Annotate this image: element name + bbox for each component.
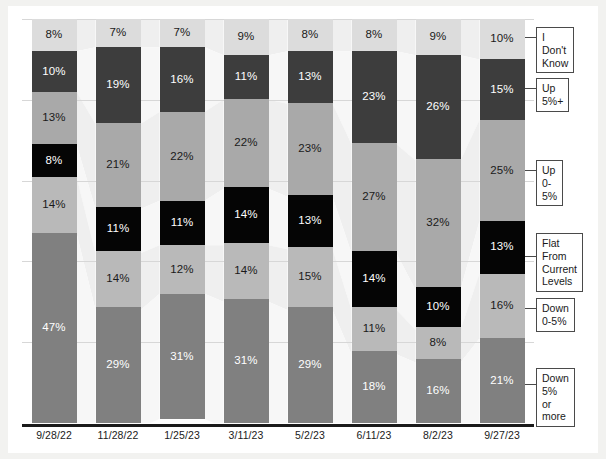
bar-segment[interactable]: 23%	[352, 51, 397, 143]
x-axis-tick-label: 11/28/22	[86, 429, 150, 451]
bar-segment-label: 14%	[106, 273, 129, 285]
bar-segment-label: 29%	[298, 359, 321, 371]
bar-segment[interactable]: 29%	[96, 307, 141, 423]
bar-segment[interactable]: 8%	[32, 19, 77, 51]
bar-segment[interactable]: 11%	[352, 307, 397, 351]
bar-segment-label: 15%	[298, 271, 321, 283]
bar-segment[interactable]: 47%	[32, 233, 77, 423]
bar-segment[interactable]: 31%	[160, 294, 205, 419]
bar-segment-label: 10%	[42, 66, 65, 78]
bar-segment[interactable]: 11%	[160, 201, 205, 245]
bar-segment[interactable]: 14%	[96, 251, 141, 307]
bar-segment[interactable]: 21%	[480, 338, 525, 423]
bar-segment[interactable]: 26%	[416, 55, 461, 159]
stacked-bar[interactable]: 8%10%13%8%14%47%	[32, 19, 77, 423]
bar-segment-label: 31%	[170, 351, 193, 363]
bar-segment[interactable]: 23%	[288, 103, 333, 195]
bar-segment[interactable]: 31%	[224, 299, 269, 423]
bar-segment[interactable]: 8%	[416, 327, 461, 359]
bar-segment[interactable]: 21%	[96, 123, 141, 207]
bar-segment-label: 22%	[234, 137, 257, 149]
bar-segment-label: 11%	[363, 323, 385, 335]
bar-segment[interactable]: 16%	[416, 359, 461, 423]
bar-segment-label: 11%	[235, 71, 257, 83]
bar-segment[interactable]: 9%	[224, 19, 269, 55]
bar-segment[interactable]: 15%	[480, 59, 525, 120]
bar-segment[interactable]: 19%	[96, 47, 141, 123]
bar-segment[interactable]: 18%	[352, 351, 397, 423]
bar-segment[interactable]: 9%	[416, 19, 461, 55]
bar-segment[interactable]: 29%	[288, 307, 333, 423]
bar-segment[interactable]: 13%	[288, 195, 333, 247]
bar-segment[interactable]: 10%	[32, 51, 77, 91]
bar-segment[interactable]: 11%	[224, 55, 269, 99]
bar-segment[interactable]: 8%	[288, 19, 333, 51]
bar-segment[interactable]: 32%	[416, 159, 461, 287]
stacked-bar[interactable]: 9%26%32%10%8%16%	[416, 19, 461, 423]
bar-slot: 8%13%23%13%15%29%	[278, 19, 342, 423]
bar-segment-label: 10%	[490, 33, 513, 45]
bar-segment[interactable]: 13%	[32, 92, 77, 145]
legend-label: Down 0-5%	[536, 298, 575, 332]
bar-segment[interactable]: 14%	[32, 177, 77, 234]
x-axis-tick-label: 6/11/23	[342, 429, 406, 451]
bar-segment[interactable]: 16%	[160, 47, 205, 112]
bar-slot: 9%11%22%14%14%31%	[214, 19, 278, 423]
x-axis-tick-label: 8/2/23	[406, 429, 470, 451]
legend-label: Up 5%+	[536, 78, 569, 112]
bar-segment[interactable]: 27%	[352, 143, 397, 251]
bar-segment-label: 8%	[46, 155, 63, 167]
bar-segment[interactable]: 8%	[32, 144, 77, 176]
bar-segment[interactable]: 10%	[480, 19, 525, 59]
bar-segment[interactable]: 15%	[288, 247, 333, 307]
bar-slot: 9%26%32%10%8%16%	[406, 19, 470, 423]
bar-slot: 8%23%27%14%11%18%	[342, 19, 406, 423]
bar-segment-label: 7%	[174, 27, 191, 39]
bar-segment-label: 22%	[170, 151, 193, 163]
bar-segment[interactable]: 8%	[352, 19, 397, 51]
x-axis-tick-label: 9/28/22	[22, 429, 86, 451]
bar-segment[interactable]: 22%	[224, 99, 269, 187]
stacked-bar[interactable]: 10%15%25%13%16%21%	[480, 19, 525, 423]
bar-segment-label: 12%	[170, 264, 193, 276]
stacked-bar[interactable]: 9%11%22%14%14%31%	[224, 19, 269, 423]
bar-segment[interactable]: 13%	[288, 51, 333, 103]
bar-segment-label: 14%	[234, 209, 257, 221]
bar-segment-label: 18%	[362, 381, 385, 393]
bar-segment-label: 27%	[362, 191, 385, 203]
x-axis-tick-label: 1/25/23	[150, 429, 214, 451]
bar-segment-label: 7%	[110, 27, 127, 39]
bar-segment-label: 29%	[106, 359, 129, 371]
bar-segment-label: 13%	[42, 112, 65, 124]
legend-leader-line	[525, 37, 537, 38]
bar-segment-label: 19%	[106, 79, 129, 91]
bar-segment-label: 13%	[298, 215, 321, 227]
bar-segment[interactable]: 16%	[480, 274, 525, 339]
legend-label: I Don't Know	[536, 27, 574, 73]
stacked-bar[interactable]: 8%23%27%14%11%18%	[352, 19, 397, 423]
bar-segment[interactable]: 22%	[160, 112, 205, 201]
stacked-bar[interactable]: 7%16%22%11%12%31%	[160, 19, 205, 423]
bar-segment[interactable]: 7%	[160, 19, 205, 47]
bar-segment[interactable]: 12%	[160, 245, 205, 293]
bar-segment[interactable]: 11%	[96, 207, 141, 251]
bar-segment-label: 14%	[362, 273, 385, 285]
x-axis-tick-label: 3/11/23	[214, 429, 278, 451]
legend-leader-line	[525, 170, 537, 171]
bar-segment-label: 21%	[490, 375, 513, 387]
stacked-bar[interactable]: 8%13%23%13%15%29%	[288, 19, 333, 423]
bar-segment-label: 14%	[234, 265, 257, 277]
bar-segment[interactable]: 14%	[224, 187, 269, 243]
bar-segment-label: 16%	[490, 300, 513, 312]
bar-segment[interactable]: 25%	[480, 120, 525, 221]
bar-segment[interactable]: 14%	[224, 243, 269, 299]
bar-segment-label: 8%	[430, 337, 447, 349]
bar-segment[interactable]: 13%	[480, 221, 525, 274]
stacked-bar[interactable]: 7%19%21%11%14%29%	[96, 19, 141, 423]
bar-segment-label: 16%	[426, 385, 449, 397]
bar-segment[interactable]: 14%	[352, 251, 397, 307]
bar-segment[interactable]: 7%	[96, 19, 141, 47]
bar-segment-label: 23%	[362, 91, 385, 103]
bar-segment[interactable]: 10%	[416, 287, 461, 327]
stacked-bar-chart: 8%10%13%8%14%47%7%19%21%11%14%29%7%16%22…	[0, 0, 606, 459]
